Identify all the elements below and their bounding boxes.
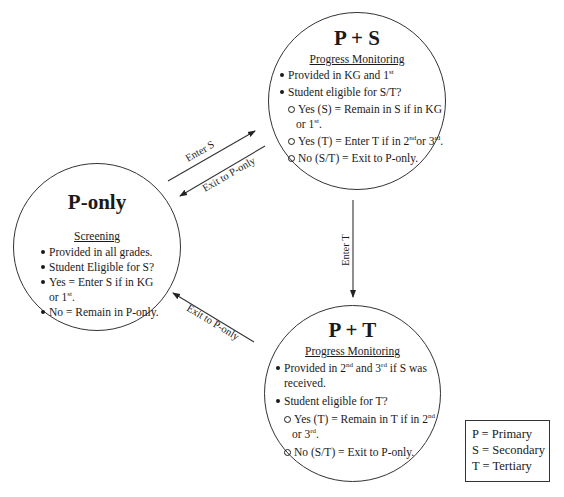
legend-item: P = Primary (472, 426, 549, 442)
list-item: Student eligible for S/T? (280, 85, 445, 100)
list-item: No = Remain in P-only. (41, 305, 159, 320)
bullet-icon (41, 265, 45, 269)
list-item: Provided in all grades. (41, 245, 159, 260)
node-p-t: P + T Progress Monitoring Provided in 2n… (264, 305, 441, 482)
svg-text:Exit to P-only: Exit to P-only (201, 154, 258, 193)
open-bullet-icon (288, 155, 295, 162)
exit-from-t-arrow: Exit to P-only (173, 293, 254, 342)
list-subitem: Yes (T) = Remain in T if in 2nd or 3rd. (276, 412, 441, 442)
node-title: P + T (265, 318, 440, 343)
svg-text:Exit to P-only: Exit to P-only (185, 302, 242, 342)
open-bullet-icon (284, 449, 291, 456)
list-item: Yes = Enter S if in KG or 1st. (41, 275, 159, 305)
list-subitem: No (S/T) = Exit to P-only. (280, 151, 445, 166)
bullet-icon (276, 366, 280, 370)
open-bullet-icon (288, 106, 295, 113)
bullet-icon (280, 90, 284, 94)
enter-s-arrow: Enter S (168, 131, 255, 181)
list-item: Provided in KG and 1st (280, 68, 445, 83)
list-subitem: Yes (S) = Remain in S if in KG or 1st. (280, 102, 445, 132)
bullet-icon (280, 73, 284, 77)
node-items: Provided in KG and 1st Student eligible … (280, 68, 445, 166)
open-bullet-icon (284, 416, 291, 423)
bullet-icon (276, 399, 280, 403)
legend-item: S = Secondary (472, 442, 549, 458)
bullet-icon (41, 280, 45, 284)
legend-item: T = Tertiary (472, 458, 549, 474)
node-subtitle: Progress Monitoring (265, 345, 440, 357)
node-items: Provided in all grades. Student Eligible… (41, 245, 159, 320)
list-subitem: No (S/T) = Exit to P-only. (276, 445, 441, 460)
legend-box: P = Primary S = Secondary T = Tertiary (465, 420, 550, 482)
bullet-icon (41, 310, 45, 314)
list-subitem: Yes (T) = Enter T if in 2ndor 3rd. (280, 134, 445, 149)
node-subtitle: Progress Monitoring (269, 53, 445, 65)
node-title: P-only (14, 190, 180, 215)
list-item: Student eligible for T? (276, 394, 441, 409)
enter-t-arrow: Enter T (340, 200, 353, 297)
node-subtitle: Screening (14, 230, 180, 242)
node-title: P + S (269, 26, 445, 51)
list-item: Provided in 2nd and 3rd if S was receive… (276, 361, 441, 391)
svg-text:Enter T: Enter T (340, 234, 351, 266)
node-p-only: P-only Screening Provided in all grades.… (13, 163, 181, 331)
open-bullet-icon (288, 138, 295, 145)
node-p-s: P + S Progress Monitoring Provided in KG… (268, 12, 446, 190)
svg-text:Enter S: Enter S (184, 139, 217, 164)
list-item: Student Eligible for S? (41, 260, 159, 275)
node-items: Provided in 2nd and 3rd if S was receive… (276, 361, 441, 460)
bullet-icon (41, 250, 45, 254)
